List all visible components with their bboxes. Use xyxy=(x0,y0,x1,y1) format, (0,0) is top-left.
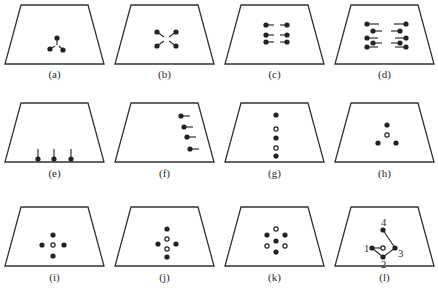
filled-dot xyxy=(370,40,375,45)
panel-caption-d: (d) xyxy=(378,68,391,81)
node-label: 1 xyxy=(364,243,369,254)
panel-k xyxy=(225,207,324,266)
panel-c xyxy=(225,5,324,64)
filled-dot xyxy=(35,156,40,161)
hollow-dot xyxy=(385,133,389,137)
filled-dot xyxy=(173,43,178,48)
trapezoid-outline xyxy=(115,103,214,162)
filled-dot xyxy=(397,40,402,45)
filled-dot xyxy=(403,35,408,40)
hollow-dot xyxy=(274,146,278,150)
filled-dot xyxy=(284,32,289,37)
trapezoid-outline xyxy=(115,5,214,64)
filled-dot xyxy=(273,249,278,254)
panel-e xyxy=(5,103,104,162)
filled-dot xyxy=(364,35,369,40)
panel-i xyxy=(5,207,104,266)
filled-dot xyxy=(178,113,183,118)
filled-dot xyxy=(54,35,59,40)
filled-dot xyxy=(364,44,369,49)
filled-dot xyxy=(60,47,65,52)
filled-dot xyxy=(155,241,160,246)
node-label: 3 xyxy=(398,248,403,259)
trapezoid-outline xyxy=(225,103,324,162)
filled-dot xyxy=(184,134,189,139)
panel-caption-c: (c) xyxy=(268,68,281,81)
panel-caption-a: (a) xyxy=(48,68,61,81)
filled-dot xyxy=(392,245,397,250)
filled-dot xyxy=(403,21,408,26)
figure-canvas: (a)(b)(c)(d)(e)(f)(g)(h)(i)(j)(k)4132(l) xyxy=(0,0,438,297)
filled-dot xyxy=(273,238,278,243)
panel-caption-l: (l) xyxy=(379,271,390,284)
node-label: 4 xyxy=(381,217,387,228)
hollow-dot xyxy=(51,243,55,247)
panel-f xyxy=(115,103,214,162)
filled-dot xyxy=(284,22,289,27)
trapezoid-outline xyxy=(225,207,324,266)
trapezoid-outline xyxy=(335,5,434,64)
hollow-dot xyxy=(283,244,287,248)
filled-dot xyxy=(61,242,66,247)
panel-l: 4132 xyxy=(335,207,434,270)
filled-dot xyxy=(164,254,169,259)
panel-b xyxy=(115,5,214,64)
bond-line xyxy=(383,230,395,248)
panel-caption-j: (j) xyxy=(159,271,170,284)
panel-caption-f: (f) xyxy=(159,167,170,180)
trapezoid-outline xyxy=(5,5,104,64)
filled-dot xyxy=(375,140,380,145)
panel-caption-h: (h) xyxy=(378,167,391,180)
filled-dot xyxy=(181,124,186,129)
trapezoid-outline xyxy=(335,103,434,162)
hollow-dot xyxy=(274,227,278,231)
filled-dot xyxy=(282,232,287,237)
hollow-dot xyxy=(274,127,278,131)
filled-dot xyxy=(164,226,169,231)
filled-dot xyxy=(173,241,178,246)
filled-dot xyxy=(384,122,389,127)
node-label: 2 xyxy=(381,259,386,270)
filled-dot xyxy=(264,232,269,237)
panel-caption-g: (g) xyxy=(268,167,281,180)
filled-dot xyxy=(154,43,159,48)
filled-dot xyxy=(273,135,278,140)
panel-caption-e: (e) xyxy=(48,167,61,180)
filled-dot xyxy=(370,28,375,33)
filled-dot xyxy=(68,156,73,161)
panel-g xyxy=(225,103,324,162)
filled-dot xyxy=(50,253,55,258)
filled-dot xyxy=(50,232,55,237)
filled-dot xyxy=(397,28,402,33)
hollow-dot xyxy=(381,246,385,250)
filled-dot xyxy=(263,22,268,27)
panel-caption-k: (k) xyxy=(268,271,281,284)
panel-caption-b: (b) xyxy=(158,68,171,81)
trapezoid-outline xyxy=(225,5,324,64)
hollow-dot xyxy=(165,247,169,251)
filled-dot xyxy=(39,242,44,247)
filled-dot xyxy=(380,227,385,232)
panel-caption-i: (i) xyxy=(49,271,60,284)
hollow-dot xyxy=(265,244,269,248)
filled-dot xyxy=(51,156,56,161)
filled-dot xyxy=(263,32,268,37)
panel-d xyxy=(335,5,434,64)
filled-dot xyxy=(187,146,192,151)
panel-a xyxy=(5,5,104,64)
filled-dot xyxy=(284,39,289,44)
filled-dot xyxy=(173,29,178,34)
filled-dot xyxy=(403,44,408,49)
filled-dot xyxy=(369,245,374,250)
filled-dot xyxy=(154,29,159,34)
filled-dot xyxy=(393,140,398,145)
filled-dot xyxy=(273,112,278,117)
filled-dot xyxy=(47,46,52,51)
hollow-dot xyxy=(165,237,169,241)
panel-j xyxy=(115,207,214,266)
panel-h xyxy=(335,103,434,162)
filled-dot xyxy=(364,21,369,26)
filled-dot xyxy=(273,153,278,158)
filled-dot xyxy=(263,39,268,44)
